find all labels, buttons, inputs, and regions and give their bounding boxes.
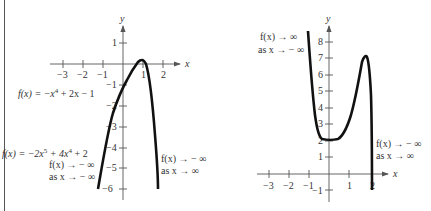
left-end-behavior-left-line2: as x → − ∞ (49, 171, 95, 182)
right-ytick-label: −1 (312, 185, 323, 196)
left-xtick-label: 2 (161, 69, 166, 80)
right-ytick-label: 1 (318, 151, 323, 162)
right-end-behavior-right-line1: f(x) → − ∞ (376, 138, 421, 150)
right-ytick-label: 3 (318, 118, 323, 129)
right-ytick-label: 5 (318, 85, 323, 96)
graphs-canvas: x y −3 −2 −1 1 2 1 −1 −2 −3 −4 −5 (0, 0, 431, 211)
left-ytick-label: −6 (102, 183, 113, 194)
left-ytick-label: −4 (106, 142, 117, 153)
right-end-behavior-left-line2: as x → − ∞ (258, 44, 304, 55)
left-xtick-label: −3 (57, 69, 68, 80)
left-ytick-label: −5 (106, 162, 117, 173)
right-x-axis-label: x (392, 168, 398, 179)
right-function-label: f(x) = −2x5 + 4x4 + 2 (2, 147, 88, 160)
left-end-behavior-right-line1: f(x) → − ∞ (161, 153, 206, 165)
right-y-axis-label: y (325, 13, 331, 24)
left-xtick-label: 1 (141, 69, 146, 80)
left-function-label: f(x) = −x4 + 2x − 1 (18, 87, 95, 100)
right-end-behavior-right-line2: as x → ∞ (376, 150, 414, 161)
left-x-axis-label: x (184, 58, 190, 69)
right-ytick-label: 4 (318, 102, 323, 113)
left-xtick-label: −2 (77, 69, 88, 80)
right-ytick-label: 6 (318, 69, 323, 80)
right-xtick-label: −3 (263, 180, 274, 191)
right-end-behavior-left-line1: f(x) → ∞ (260, 31, 297, 43)
right-ytick-label: 7 (318, 52, 323, 63)
left-end-behavior-right-line2: as x → ∞ (161, 165, 199, 176)
left-end-behavior-left-line1: f(x) → − ∞ (49, 159, 94, 171)
right-xtick-label: 1 (347, 180, 352, 191)
right-ytick-label: 8 (318, 36, 323, 47)
left-ytick-label: −1 (106, 79, 117, 90)
left-y-axis-label: y (119, 13, 125, 24)
right-xtick-label: −2 (283, 180, 294, 191)
left-ytick-label: 1 (112, 37, 117, 48)
left-graph: x y −3 −2 −1 1 2 1 −1 −2 −3 −4 −5 (18, 13, 206, 200)
